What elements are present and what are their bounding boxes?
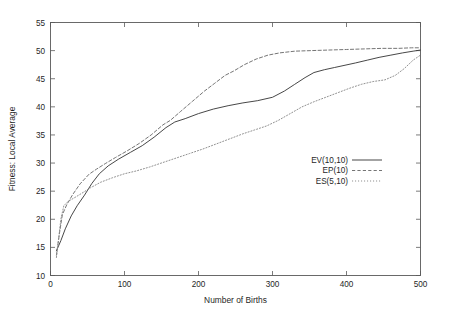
y-tick-label: 55 bbox=[36, 19, 46, 28]
x-axis-ticks: 0100200300400500 bbox=[48, 23, 428, 289]
legend-label-es-5-10: ES(5,10) bbox=[316, 177, 349, 186]
legend-label-ep-10: EP(10) bbox=[323, 166, 349, 175]
y-tick-label: 15 bbox=[36, 243, 46, 252]
series-line-es-5-10 bbox=[56, 55, 420, 257]
series-line-ep-10 bbox=[56, 48, 420, 255]
chart-container: 10152025303540455055 0100200300400500 EV… bbox=[0, 0, 450, 314]
line-chart: 10152025303540455055 0100200300400500 EV… bbox=[0, 0, 450, 314]
y-tick-label: 10 bbox=[36, 272, 46, 281]
y-tick-label: 20 bbox=[36, 215, 46, 224]
x-tick-label: 0 bbox=[48, 280, 53, 289]
y-tick-label: 40 bbox=[36, 103, 46, 112]
x-tick-label: 400 bbox=[340, 280, 354, 289]
y-tick-label: 50 bbox=[36, 47, 46, 56]
y-tick-label: 45 bbox=[36, 75, 46, 84]
chart-legend: EV(10,10)EP(10)ES(5,10) bbox=[311, 156, 382, 186]
y-tick-label: 25 bbox=[36, 187, 46, 196]
x-tick-label: 100 bbox=[118, 280, 132, 289]
y-tick-label: 30 bbox=[36, 159, 46, 168]
x-tick-label: 200 bbox=[192, 280, 206, 289]
series-line-ev-10-10 bbox=[56, 50, 420, 251]
y-axis-title: Fitness: Local Average bbox=[7, 106, 17, 191]
series-group bbox=[56, 48, 420, 258]
x-tick-label: 300 bbox=[266, 280, 280, 289]
y-tick-label: 35 bbox=[36, 131, 46, 140]
y-axis-ticks: 10152025303540455055 bbox=[36, 19, 421, 281]
x-tick-label: 500 bbox=[414, 280, 428, 289]
x-axis-title: Number of Births bbox=[204, 295, 267, 305]
legend-label-ev-10-10: EV(10,10) bbox=[311, 156, 348, 165]
